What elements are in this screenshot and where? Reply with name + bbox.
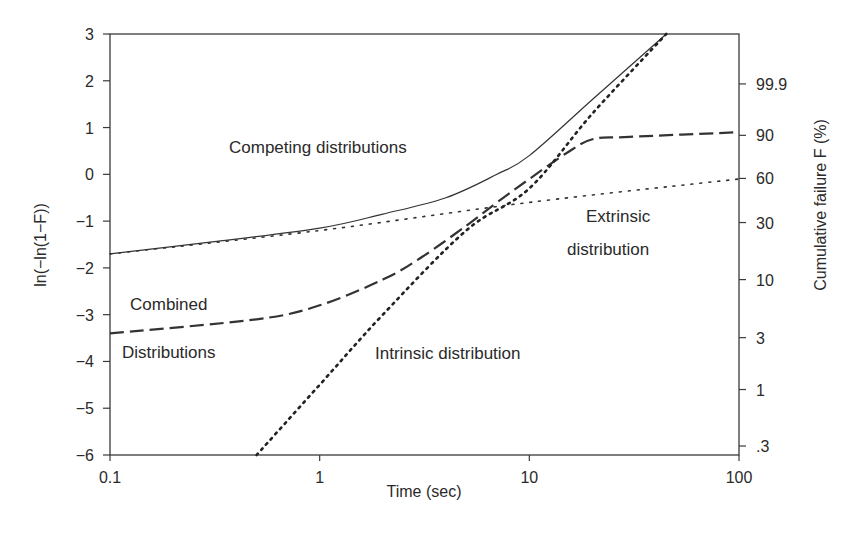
x-tick-label: 10 bbox=[520, 469, 538, 486]
annotation-extrinsic-2: distribution bbox=[567, 240, 649, 259]
y-tick-label: 1 bbox=[85, 120, 94, 137]
x-tick-label: 100 bbox=[726, 469, 753, 486]
y2-tick-label: 90 bbox=[756, 127, 774, 144]
x-tick-label: 1 bbox=[315, 469, 324, 486]
annotation-competing: Competing distributions bbox=[229, 138, 407, 157]
y-tick-label: −4 bbox=[76, 353, 94, 370]
y-tick-label: −2 bbox=[76, 260, 94, 277]
x-axis-title: Time (sec) bbox=[387, 483, 462, 500]
annotation-combined-2: Distributions bbox=[122, 343, 216, 362]
y-tick-label: −5 bbox=[76, 400, 94, 417]
y-tick-label: −1 bbox=[76, 213, 94, 230]
axis-ticks: 0.11101003210−1−2−3−4−5−699.99060301031.… bbox=[76, 26, 787, 486]
y-tick-label: 3 bbox=[85, 26, 94, 43]
y2-tick-label: 1 bbox=[756, 382, 765, 399]
y-tick-label: −3 bbox=[76, 307, 94, 324]
y2-tick-label: .3 bbox=[756, 438, 769, 455]
y2-axis-title: Cumulative failure F (%) bbox=[812, 119, 829, 291]
annotation-intrinsic: Intrinsic distribution bbox=[375, 344, 521, 363]
y2-tick-label: 60 bbox=[756, 170, 774, 187]
y2-tick-label: 30 bbox=[756, 215, 774, 232]
annotation-combined: Combined bbox=[130, 295, 208, 314]
y-axis-title: ln(−ln(1−F)) bbox=[32, 203, 49, 287]
y2-tick-label: 3 bbox=[756, 330, 765, 347]
x-tick-label: 0.1 bbox=[99, 469, 121, 486]
y2-tick-label: 99.9 bbox=[756, 76, 787, 93]
y2-tick-label: 10 bbox=[756, 272, 774, 289]
y-tick-label: −6 bbox=[76, 447, 94, 464]
annotation-extrinsic: Extrinsic bbox=[586, 207, 651, 226]
y-tick-label: 2 bbox=[85, 73, 94, 90]
y-tick-label: 0 bbox=[85, 166, 94, 183]
weibull-plot: 0.11101003210−1−2−3−4−5−699.99060301031.… bbox=[0, 0, 853, 555]
